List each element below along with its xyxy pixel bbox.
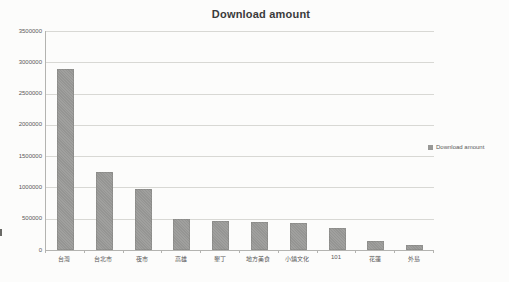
x-axis-tick [200,250,201,253]
bar [173,219,190,250]
bar [329,228,346,250]
gridline [46,156,434,157]
chart-title: Download amount [212,8,310,20]
gridline [46,31,434,32]
plot-area [45,31,434,251]
x-axis-label: 台北市 [94,254,112,263]
bar [367,241,384,250]
scan-artifact-mark [0,229,2,236]
bar [57,69,74,250]
bar [251,222,268,250]
x-axis-tick [394,250,395,253]
y-axis-label: 1500000 [19,153,42,159]
x-axis-label: 外島 [408,254,420,263]
y-axis-label: 1000000 [19,184,42,190]
x-axis-label: 高雄 [175,254,187,263]
bar [406,245,423,250]
y-axis-label: 3500000 [19,28,42,34]
x-axis-label: 花蓮 [369,254,381,263]
x-axis-tick [45,250,46,253]
x-axis-tick [355,250,356,253]
x-axis-tick [84,250,85,253]
x-axis-label: 台灣 [58,254,70,263]
gridline [46,125,434,126]
legend-label: Download amount [436,144,484,150]
y-axis-label: 0 [39,247,42,253]
x-axis-tick [278,250,279,253]
x-axis-label: 墾丁 [214,254,226,263]
y-axis-label: 500000 [22,215,42,221]
y-axis-label: 2000000 [19,121,42,127]
x-axis-tick [317,250,318,253]
x-axis-tick [161,250,162,253]
x-axis-tick [123,250,124,253]
x-axis-label: 101 [331,254,341,260]
download-amount-chart: Download amount Download amount 05000001… [0,0,509,282]
y-axis-label: 3000000 [19,59,42,65]
legend-marker-icon [428,145,433,150]
bar [135,189,152,250]
gridline [46,94,434,95]
x-axis-label: 小鎮文化 [285,254,309,263]
y-axis-label: 2500000 [19,90,42,96]
bar [212,221,229,250]
x-axis-tick [239,250,240,253]
bar [96,172,113,250]
x-axis-tick [433,250,434,253]
legend: Download amount [428,144,484,150]
gridline [46,62,434,63]
x-axis-label: 夜市 [136,254,148,263]
x-axis-label: 地方美食 [246,254,270,263]
bar [290,223,307,250]
